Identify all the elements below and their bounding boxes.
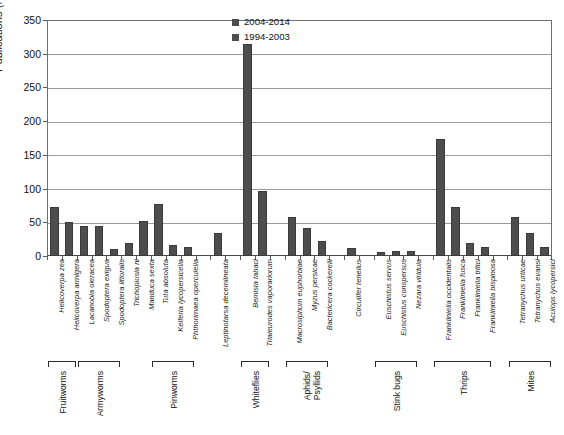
group-bracket [286, 361, 328, 367]
bar [436, 139, 444, 256]
x-category-label: Trialeurodes vaporariorum [265, 259, 274, 346]
group-label: Whiteflies [251, 371, 261, 408]
x-category-label: Frankliniella tritici [473, 259, 482, 317]
group-bracket [375, 361, 417, 367]
x-category-label: Bemisia tabaci [251, 259, 260, 308]
bar [110, 249, 118, 256]
x-category-label: Tuta absoluta [161, 259, 170, 304]
legend: 2004-2014 1994-2003 [232, 16, 290, 46]
group-label: Aphids/ Psyllids [303, 371, 322, 400]
x-category-label: Bactericera cockerelli [325, 259, 334, 330]
bar [451, 207, 459, 256]
x-category-label: Helicoverpa armigera [72, 259, 81, 330]
bar [303, 228, 311, 256]
bar [95, 226, 103, 256]
group-bracket [241, 361, 268, 367]
y-tick-label: 350 [5, 15, 41, 25]
bar [65, 222, 73, 256]
legend-item-0: 2004-2014 [232, 16, 290, 28]
group-label: Fruitworms [58, 371, 68, 414]
legend-swatch-icon-0 [232, 19, 239, 26]
y-tick-label: 0 [5, 251, 41, 261]
bar [511, 217, 519, 256]
x-category-label: Phthorimaea operculella [191, 259, 200, 340]
x-axis-category-labels: Helicoverpa zeaHelicoverpa armigeraLacan… [47, 259, 552, 359]
legend-label-1: 1994-2003 [244, 32, 290, 42]
group-label: Thrips [459, 371, 469, 395]
x-category-label: Nezara viridula [414, 259, 423, 309]
bar [80, 226, 88, 256]
y-axis-title: Publications (No.) [0, 0, 4, 72]
group-label: Pinworms [169, 371, 179, 409]
y-tick-label: 200 [5, 116, 41, 126]
group-bracket [509, 361, 551, 367]
x-category-label: Helicoverpa zea [57, 259, 66, 313]
group-bracket [78, 361, 120, 367]
bar [169, 245, 177, 256]
bar [466, 243, 474, 256]
group-label: Mites [526, 371, 536, 392]
bar [481, 247, 489, 256]
bar [540, 247, 548, 256]
x-category-label: Tetranychus urticae [518, 259, 527, 324]
x-category-label: Leptinotarsa decemlineata [221, 259, 230, 347]
x-category-label: Euschistus servus [384, 259, 393, 319]
x-category-label: Spodoptera exigua [102, 259, 111, 322]
x-axis-group-labels: FruitwormsArmywormsPinwormsWhitefliesAph… [47, 361, 552, 435]
bar [526, 233, 534, 256]
bar-series-2004-2014 [47, 20, 552, 256]
y-tick-label: 250 [5, 82, 41, 92]
x-category-label: Frankliniella bispinosa [488, 259, 497, 333]
bar [318, 241, 326, 256]
y-tick-label: 150 [5, 150, 41, 160]
x-category-label: Frankliniella occidentalis [444, 259, 453, 340]
bar [154, 204, 162, 256]
group-label: Armyworms [95, 371, 105, 416]
x-category-label: Tetranychus evansi [533, 259, 542, 323]
x-category-label: Lacanobia oleracea [87, 259, 96, 324]
x-category-label: Macrosiphum euphorbiae [295, 259, 304, 344]
y-tick-label: 300 [5, 49, 41, 59]
x-category-label: Euschistus conspersus [399, 259, 408, 336]
x-category-label: Keiferia lycopersicella [176, 259, 185, 332]
legend-item-1: 1994-2003 [232, 31, 290, 43]
legend-swatch-icon-1 [232, 34, 239, 41]
bar [347, 248, 355, 256]
bar [125, 243, 133, 256]
bar [214, 233, 222, 256]
x-category-label: Manduca sexta [147, 259, 156, 310]
bar [258, 191, 266, 256]
x-category-label: Aculops lycopersici [548, 259, 557, 323]
bar [50, 207, 58, 256]
group-bracket [48, 361, 75, 367]
y-tick-label: 50 [5, 217, 41, 227]
group-bracket [152, 361, 194, 367]
y-tick-label: 100 [5, 184, 41, 194]
legend-label-0: 2004-2014 [244, 17, 290, 27]
x-category-label: Spodoptera littoralis [117, 259, 126, 325]
bar [139, 221, 147, 256]
group-bracket [434, 361, 491, 367]
bar [288, 217, 296, 256]
x-category-label: Circulifer tenellus [354, 259, 363, 317]
x-category-label: Trichoplusia ni [132, 259, 141, 307]
bar-chart: Publications (No.) 050100150200250300350… [0, 0, 564, 435]
x-category-label: Frankliniella fusca [458, 259, 467, 319]
bar [184, 247, 192, 256]
x-category-label: Myzus persicae [310, 259, 319, 311]
group-label: Stink bugs [392, 371, 402, 411]
bar [243, 44, 251, 256]
